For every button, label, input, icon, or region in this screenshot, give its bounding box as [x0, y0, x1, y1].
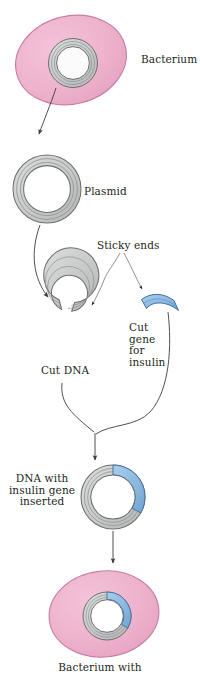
stage-cut-gene-for-insulin [142, 294, 179, 310]
bacterium-plasmid [49, 39, 98, 88]
genetic-engineering-diagram: Bacterium Plasmid Sticky ends Cut DNA Cu… [0, 0, 200, 677]
cut-dna-body [44, 248, 99, 311]
plasmid-inner-hole [24, 166, 71, 213]
recombinant-inner-hole [91, 475, 135, 519]
arrow-cut-gene-to-recombinant [96, 312, 170, 434]
stage-cut-dna [44, 248, 99, 311]
stage-bacterium [6, 4, 136, 116]
sticky-ends-leader-right [124, 253, 142, 289]
arrow-cut-dna-to-recombinant [62, 383, 94, 432]
stage-recombinant-plasmid [81, 465, 145, 529]
stage-plasmid [13, 155, 81, 223]
transformed-bacterium-plasmid [83, 592, 131, 640]
stage-transformed-bacterium [45, 565, 163, 662]
cut-gene-arc [142, 294, 179, 310]
diagram-canvas [0, 0, 200, 677]
